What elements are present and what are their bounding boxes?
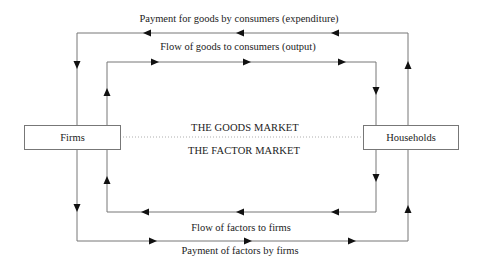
- firms-node: Firms: [24, 125, 121, 150]
- arrow-up-icon: [405, 205, 412, 213]
- firms-label: Firms: [60, 132, 85, 143]
- arrow-right-icon: [243, 59, 251, 66]
- arrow-down-icon: [373, 87, 380, 95]
- arrow-down-icon: [373, 174, 380, 182]
- factors-flow-line: [107, 149, 376, 212]
- arrow-left-icon: [331, 209, 339, 216]
- arrow-right-icon: [149, 238, 157, 245]
- arrow-left-icon: [141, 209, 149, 216]
- arrow-up-icon: [104, 176, 111, 184]
- arrow-left-icon: [143, 30, 151, 37]
- expenditure-flow-label: Payment for goods by consumers (expendit…: [139, 13, 338, 25]
- factor-market-label: THE FACTOR MARKET: [188, 145, 300, 157]
- arrow-right-icon: [348, 238, 356, 245]
- arrow-down-icon: [74, 204, 81, 212]
- households-label: Households: [386, 132, 436, 143]
- households-node: Households: [363, 125, 459, 150]
- factors-flow-label: Flow of factors to firms: [191, 222, 291, 234]
- arrow-up-icon: [104, 88, 111, 96]
- goods-market-label: THE GOODS MARKET: [191, 122, 299, 134]
- arrow-right-icon: [338, 59, 346, 66]
- arrow-left-icon: [331, 30, 339, 37]
- output-flow-line: [107, 62, 376, 125]
- factor-payment-flow-label: Payment of factors by firms: [181, 245, 298, 257]
- arrow-left-icon: [236, 30, 244, 37]
- output-flow-label: Flow of goods to consumers (output): [160, 41, 315, 53]
- arrow-left-icon: [236, 209, 244, 216]
- arrow-right-icon: [151, 59, 159, 66]
- arrow-right-icon: [244, 238, 252, 245]
- arrow-down-icon: [74, 61, 81, 69]
- arrow-up-icon: [405, 61, 412, 69]
